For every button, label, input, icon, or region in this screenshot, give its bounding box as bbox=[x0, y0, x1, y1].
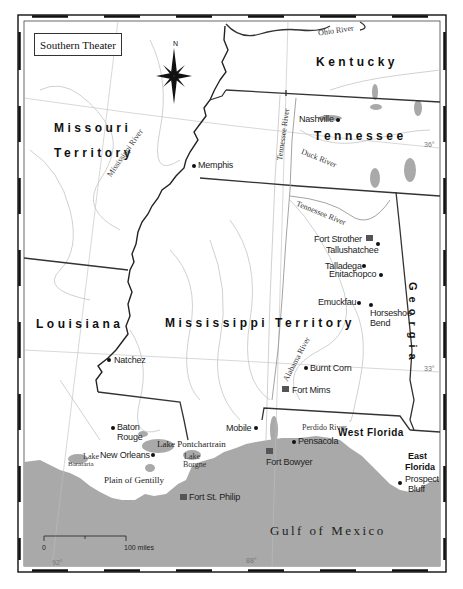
lon-88-label: 88° bbox=[246, 557, 257, 564]
scale-end-label: 100 miles bbox=[124, 544, 154, 551]
place-plain-of-gentilly: Plain of Gentilly bbox=[104, 476, 164, 485]
scale-start-label: 0 bbox=[42, 544, 46, 551]
place-emuckfau: Emuckfau bbox=[318, 298, 356, 307]
place-memphis: Memphis bbox=[198, 161, 233, 170]
place-horseshoe-bend: Bend bbox=[370, 319, 390, 328]
region-tennessee: Tennessee bbox=[314, 130, 407, 142]
place-mobile: Mobile bbox=[226, 424, 251, 433]
compass-north-label: N bbox=[173, 40, 178, 47]
lat-36-label: 36° bbox=[424, 141, 435, 148]
lon-92-label: 92° bbox=[52, 559, 63, 566]
place-prospect: Prospect bbox=[405, 475, 439, 484]
region-kentucky: Kentucky bbox=[316, 56, 398, 68]
gulf-of-mexico-label: Gulf of Mexico bbox=[270, 524, 386, 537]
place-fort-strother: Fort Strother bbox=[314, 235, 362, 244]
region-georgia: Georgia bbox=[407, 282, 418, 366]
place-burnt-corn: Burnt Corn bbox=[310, 364, 352, 373]
place-fort-mims: Fort Mims bbox=[292, 386, 330, 395]
lake-pontchartrain: Lake Pontchartrain bbox=[157, 440, 226, 449]
region-east-florida-2: Florida bbox=[405, 463, 435, 472]
place-new-orleans: New Orleans bbox=[100, 451, 150, 460]
lat-33-label: 33° bbox=[424, 365, 435, 372]
place-tallushatchee: Tallushatchee bbox=[326, 246, 378, 255]
place-nashville: Nashville bbox=[299, 115, 334, 124]
lake-borgne-2: Borgne bbox=[183, 461, 206, 469]
place-horseshoe: Horseshoe bbox=[370, 309, 412, 318]
place-baton-rouge: Rouge bbox=[117, 433, 143, 442]
region-louisiana: Louisiana bbox=[36, 318, 124, 330]
lake-barataria-2: Barataria bbox=[68, 461, 94, 468]
region-missouri: Missouri bbox=[54, 122, 131, 134]
region-west-florida: West Florida bbox=[338, 428, 404, 438]
place-prospect-bluff: Bluff bbox=[408, 485, 425, 494]
place-baton: Baton bbox=[117, 423, 140, 432]
place-fort-st-philip: Fort St. Philip bbox=[189, 493, 240, 502]
place-natchez: Natchez bbox=[114, 356, 146, 365]
river-perdido: Perdido River bbox=[302, 424, 347, 432]
region-east-florida-1: East bbox=[408, 452, 427, 461]
place-enitachopco: Enitachopco bbox=[329, 270, 376, 279]
map-title: Southern Theater bbox=[34, 33, 122, 56]
place-fort-bowyer: Fort Bowyer bbox=[266, 458, 312, 467]
region-mississippi-territory: Mississippi Territory bbox=[165, 317, 355, 329]
place-pensacola: Pensacola bbox=[298, 437, 338, 446]
